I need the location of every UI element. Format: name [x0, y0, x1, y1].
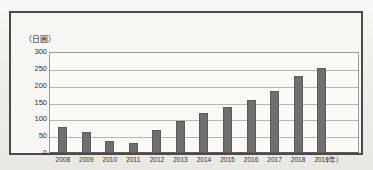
y-axis-unit-label: （日圓） — [24, 33, 56, 44]
bar — [199, 113, 208, 153]
x-axis-tick-2010: 2010 — [98, 155, 122, 167]
y-axis-tick-0: 0 — [43, 149, 47, 157]
bar-slot — [239, 52, 263, 153]
y-axis-tick-200: 200 — [34, 82, 47, 90]
x-axis-tick-2008: 2008 — [51, 155, 75, 167]
y-axis-tick-250: 250 — [34, 65, 47, 73]
y-axis-tick-50: 50 — [39, 132, 47, 140]
bar — [317, 68, 326, 153]
x-axis-tick-2011: 2011 — [122, 155, 146, 167]
bar-slot — [122, 52, 146, 153]
bar-slot — [169, 52, 193, 153]
bar-slot — [75, 52, 99, 153]
bar — [294, 76, 303, 153]
bar-slot — [216, 52, 240, 153]
bar-series — [49, 52, 359, 153]
x-axis-tick-2018: 2018 — [286, 155, 310, 167]
chart-figure-frame: （日圓） 300250200150100500 2008200920102011… — [9, 11, 363, 155]
x-axis-tick-2017: 2017 — [263, 155, 287, 167]
bar-slot — [263, 52, 287, 153]
x-axis-unit-label: （年） — [322, 155, 343, 165]
bar — [105, 141, 114, 153]
bar-slot — [286, 52, 310, 153]
x-axis-tick-labels: 2008200920102011201220132014201520162017… — [49, 155, 359, 167]
x-axis-tick-2009: 2009 — [75, 155, 99, 167]
bar-slot — [51, 52, 75, 153]
bar-slot — [145, 52, 169, 153]
bar-slot — [98, 52, 122, 153]
x-axis-tick-2015: 2015 — [216, 155, 240, 167]
x-axis-tick-2014: 2014 — [192, 155, 216, 167]
bar-slot — [192, 52, 216, 153]
bar-slot — [310, 52, 334, 153]
x-axis-tick-2012: 2012 — [145, 155, 169, 167]
y-axis-tick-labels: 300250200150100500 — [25, 48, 47, 157]
plot-wrapper — [49, 52, 359, 153]
bar — [176, 121, 185, 153]
bar — [58, 127, 67, 153]
x-axis-tick-2013: 2013 — [169, 155, 193, 167]
bar — [247, 100, 256, 153]
y-axis-tick-100: 100 — [34, 115, 47, 123]
x-axis-tick-2016: 2016 — [239, 155, 263, 167]
bar — [152, 130, 161, 153]
bar — [129, 143, 138, 153]
y-axis-tick-150: 150 — [34, 99, 47, 107]
bar — [82, 132, 91, 153]
bar — [270, 91, 279, 153]
bar-slot — [333, 52, 357, 153]
y-axis-tick-300: 300 — [34, 48, 47, 56]
bar — [223, 107, 232, 153]
screenshot-root: （日圓） 300250200150100500 2008200920102011… — [0, 0, 373, 170]
